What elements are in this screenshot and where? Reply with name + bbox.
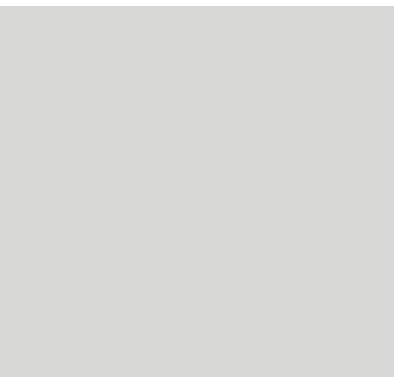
population-line-chart xyxy=(0,0,394,377)
chart-canvas xyxy=(0,0,394,377)
